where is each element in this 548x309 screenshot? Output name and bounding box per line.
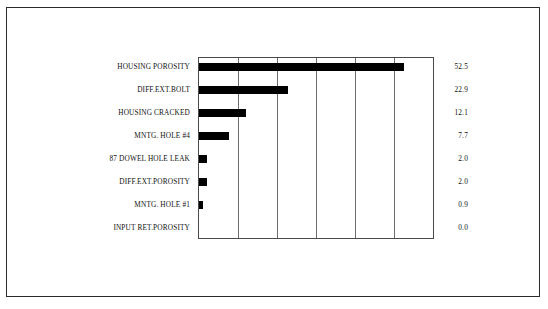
- bar: [199, 178, 207, 186]
- value-label: 7.7: [438, 131, 468, 140]
- bar: [199, 132, 229, 140]
- category-label: HOUSING CRACKED: [60, 108, 190, 117]
- pareto-bar-chart: HOUSING POROSITY DIFF.EXT.BOLT HOUSING C…: [0, 0, 548, 309]
- category-label: HOUSING POROSITY: [60, 62, 190, 71]
- bar: [199, 109, 246, 117]
- category-label: DIFF.EXT.POROSITY: [60, 177, 190, 186]
- bar: [199, 86, 288, 94]
- value-label-column: 52.5 22.9 12.1 7.7 2.0 2.0 0.9 0.0: [438, 57, 468, 239]
- category-label: DIFF.EXT.BOLT: [60, 85, 190, 94]
- category-label: 87 DOWEL HOLE LEAK: [60, 154, 190, 163]
- value-label: 2.0: [438, 177, 468, 186]
- category-label: INPUT RET.POROSITY: [60, 223, 190, 232]
- plot-area: [198, 57, 434, 239]
- value-label: 0.9: [438, 200, 468, 209]
- value-label: 0.0: [438, 223, 468, 232]
- value-label: 22.9: [438, 85, 468, 94]
- bar-series: [199, 58, 433, 238]
- category-label: MNTG. HOLE #1: [60, 200, 190, 209]
- screenshot-page: HOUSING POROSITY DIFF.EXT.BOLT HOUSING C…: [0, 0, 548, 309]
- category-label: MNTG. HOLE #4: [60, 131, 190, 140]
- value-label: 12.1: [438, 108, 468, 117]
- bar: [199, 201, 203, 209]
- bar: [199, 63, 404, 71]
- value-label: 2.0: [438, 154, 468, 163]
- category-label-column: HOUSING POROSITY DIFF.EXT.BOLT HOUSING C…: [60, 57, 190, 239]
- bar: [199, 155, 207, 163]
- value-label: 52.5: [438, 62, 468, 71]
